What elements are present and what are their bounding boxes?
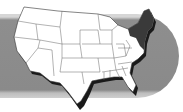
map-landmass [14,7,154,104]
us-map [0,0,183,112]
